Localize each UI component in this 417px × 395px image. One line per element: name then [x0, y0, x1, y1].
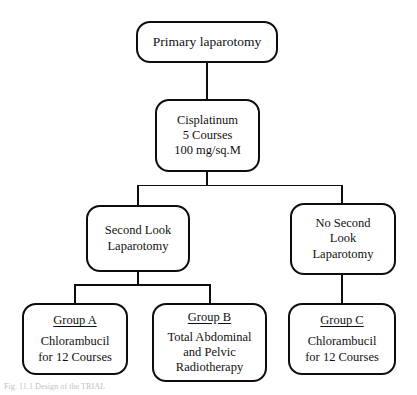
- node-group-a-heading: Group A: [53, 313, 96, 328]
- node-group-c[interactable]: Group C Chlorambucil for 12 Courses: [288, 303, 396, 375]
- node-primary-laparotomy-line-1: Primary laparotomy: [153, 34, 261, 50]
- node-group-c-heading: Group C: [320, 313, 363, 328]
- node-group-b-line-1: Total Abdominal: [167, 330, 251, 345]
- node-no-second-look-laparotomy-line-3: Laparotomy: [312, 247, 373, 262]
- edge-to-group-a: [74, 284, 76, 303]
- node-group-a-line-1: Chlorambucil: [41, 334, 110, 349]
- edge-to-group-b: [209, 284, 211, 303]
- flowchart-figure: Primary laparotomy Cisplatinum 5 Courses…: [0, 0, 417, 395]
- node-primary-laparotomy[interactable]: Primary laparotomy: [136, 21, 278, 63]
- edge-second-look-split-bar: [74, 284, 211, 286]
- figure-caption: Fig. 11.1 Design of the TRIAL: [4, 382, 413, 392]
- node-no-second-look-laparotomy-line-1: No Second: [315, 216, 370, 231]
- node-second-look-laparotomy-line-1: Second Look: [105, 223, 171, 238]
- node-group-b-line-2: and Pelvic: [183, 345, 235, 360]
- node-group-a[interactable]: Group A Chlorambucil for 12 Courses: [22, 303, 128, 375]
- edge-second-look-stem: [137, 271, 139, 285]
- node-cisplatinum-line-1: Cisplatinum: [177, 113, 238, 128]
- edge-primary-to-cisplatinum: [206, 62, 208, 100]
- edge-to-second-look: [137, 185, 139, 206]
- node-group-b-heading: Group B: [188, 310, 231, 325]
- node-second-look-laparotomy[interactable]: Second Look Laparotomy: [86, 205, 190, 272]
- node-cisplatinum-line-2: 5 Courses: [183, 128, 233, 143]
- node-second-look-laparotomy-line-2: Laparotomy: [107, 239, 168, 254]
- node-group-b-line-3: Radiotherapy: [176, 360, 243, 375]
- edge-to-no-second-look: [341, 185, 343, 204]
- node-no-second-look-laparotomy[interactable]: No Second Look Laparotomy: [290, 203, 396, 275]
- edge-to-group-c: [341, 274, 343, 303]
- node-cisplatinum-line-3: 100 mg/sq.M: [174, 143, 241, 158]
- node-no-second-look-laparotomy-line-2: Look: [330, 231, 356, 246]
- node-group-c-line-1: Chlorambucil: [308, 334, 377, 349]
- node-group-c-line-2: for 12 Courses: [305, 350, 379, 365]
- edge-cisplatinum-split-bar: [137, 185, 343, 187]
- node-cisplatinum[interactable]: Cisplatinum 5 Courses 100 mg/sq.M: [155, 99, 260, 172]
- node-group-a-line-2: for 12 Courses: [38, 350, 112, 365]
- node-group-b[interactable]: Group B Total Abdominal and Pelvic Radio…: [152, 303, 267, 382]
